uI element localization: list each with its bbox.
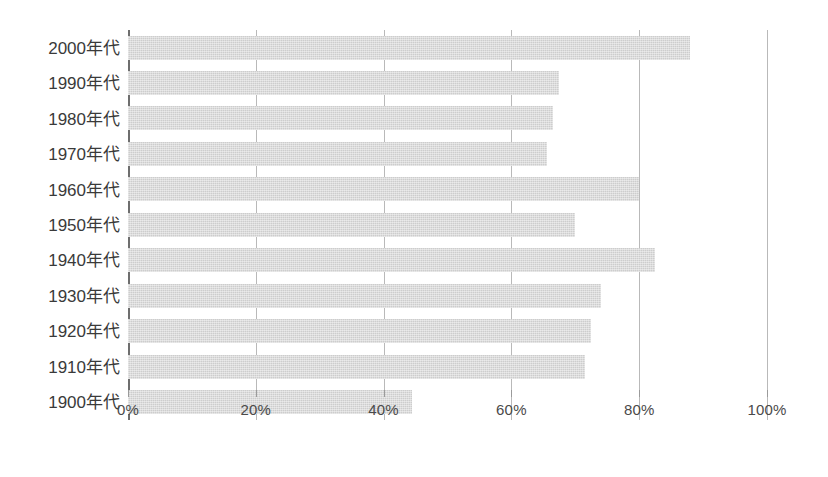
bar-1910年代 [128, 355, 585, 379]
bar-1970年代 [128, 142, 547, 166]
bar-2000年代 [128, 36, 690, 60]
bar-1930年代 [128, 284, 601, 308]
y-axis-label-1960年代: 1960年代 [0, 182, 120, 199]
bar-row [128, 65, 767, 100]
bar-row [128, 385, 767, 420]
bar-1960年代 [128, 177, 639, 201]
y-axis-label-2000年代: 2000年代 [0, 40, 120, 57]
bar-row [128, 243, 767, 278]
x-tick-label-60: 60% [496, 401, 527, 418]
bar-row [128, 101, 767, 136]
x-tick-20 [256, 390, 257, 397]
x-tick-80 [639, 390, 640, 397]
x-tick-0 [128, 390, 129, 397]
y-axis-label-1910年代: 1910年代 [0, 359, 120, 376]
plot-area [128, 30, 767, 420]
y-axis-label-1970年代: 1970年代 [0, 146, 120, 163]
bar-1920年代 [128, 319, 591, 343]
y-axis-label-1980年代: 1980年代 [0, 111, 120, 128]
y-axis-label-1930年代: 1930年代 [0, 288, 120, 305]
x-tick-label-40: 40% [368, 401, 399, 418]
y-axis-label-1990年代: 1990年代 [0, 75, 120, 92]
bar-row [128, 207, 767, 242]
bar-1990年代 [128, 71, 559, 95]
y-axis-label-1900年代: 1900年代 [0, 394, 120, 411]
x-tick-label-0: 0% [117, 401, 139, 418]
y-axis-label-1920年代: 1920年代 [0, 323, 120, 340]
bar-1940年代 [128, 248, 655, 272]
bar-row [128, 278, 767, 313]
bar-1980年代 [128, 106, 553, 130]
x-tick-label-80: 80% [624, 401, 655, 418]
x-tick-label-100: 100% [747, 401, 786, 418]
y-axis-label-1950年代: 1950年代 [0, 217, 120, 234]
bar-chart-figure: 2000年代1990年代1980年代1970年代1960年代1950年代1940… [0, 0, 828, 477]
bar-row [128, 30, 767, 65]
x-tick-100 [767, 390, 768, 397]
bar-row [128, 136, 767, 171]
x-tick-label-20: 20% [240, 401, 271, 418]
bar-row [128, 172, 767, 207]
gridline-100 [767, 30, 768, 420]
bar-row [128, 349, 767, 384]
bar-1950年代 [128, 213, 575, 237]
bar-row [128, 314, 767, 349]
y-axis-label-1940年代: 1940年代 [0, 252, 120, 269]
x-tick-60 [511, 390, 512, 397]
x-tick-40 [384, 390, 385, 397]
